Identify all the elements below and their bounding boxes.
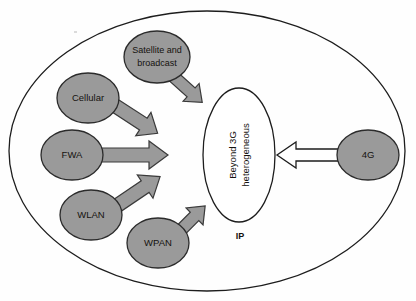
- node-wlan[interactable]: WLAN: [60, 190, 122, 240]
- satellite-label-line2: broadcast: [137, 58, 177, 68]
- network-convergence-diagram: Beyond 3G heterogeneous Satellite and br…: [0, 0, 416, 301]
- node-4g[interactable]: 4G: [337, 130, 399, 180]
- cellular-label: Cellular: [72, 92, 104, 103]
- ip-boundary-label: IP: [236, 231, 245, 241]
- wlan-label: WLAN: [77, 209, 105, 220]
- node-fwa[interactable]: FWA: [41, 130, 103, 180]
- node-satellite[interactable]: Satellite and broadcast: [124, 31, 190, 83]
- satellite-label-line1: Satellite and: [132, 45, 182, 55]
- satellite-ellipse: [124, 31, 190, 83]
- beyond-3g-label-line2: heterogeneous: [240, 123, 251, 187]
- beyond-3g-label-line1: Beyond 3G: [227, 131, 238, 179]
- node-wpan[interactable]: WPAN: [127, 218, 189, 268]
- wpan-label: WPAN: [144, 237, 172, 248]
- node-cellular[interactable]: Cellular: [57, 73, 119, 123]
- diagram-canvas: Beyond 3G heterogeneous Satellite and br…: [0, 0, 416, 301]
- node-beyond-3g-heterogeneous[interactable]: Beyond 3G heterogeneous: [203, 88, 275, 222]
- fwa-label: FWA: [62, 149, 83, 160]
- 4g-label: 4G: [362, 149, 375, 160]
